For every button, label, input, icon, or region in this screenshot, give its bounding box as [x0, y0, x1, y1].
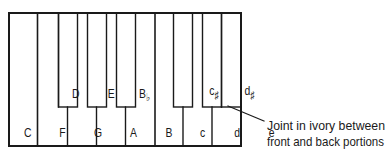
white-key-label-c: C: [24, 125, 32, 139]
black-key-b-flat: [117, 13, 136, 107]
note-letter: B: [139, 86, 146, 100]
black-key-label-d: D: [72, 86, 80, 100]
white-key-label-c-lower: c: [200, 125, 205, 139]
white-key-label-a: A: [130, 125, 137, 139]
sharp-sign: ♯: [250, 89, 254, 101]
white-key-label-b: B: [166, 125, 173, 139]
annotation: Joint in ivory between front and back po…: [267, 118, 385, 149]
white-key-label-d-lower: d: [234, 125, 240, 139]
annotation-line-1: Joint in ivory between: [267, 118, 385, 133]
flat-sign: ♭: [146, 91, 150, 103]
sharp-sign: ♯: [214, 89, 218, 101]
black-key-c-sharp: [174, 13, 193, 107]
white-key-label-g: G: [94, 125, 102, 139]
black-key-labels: D E B♭ c♯ d♯: [72, 83, 255, 103]
black-key-e: [88, 13, 107, 107]
annotation-line-2: front and back portions: [267, 134, 384, 149]
annotation-leader-line: [228, 106, 264, 121]
white-key-label-f: F: [59, 125, 65, 139]
white-key-labels: C F G A B c d e: [24, 125, 275, 139]
black-key-label-c-sharp: c♯: [209, 83, 219, 101]
note-letter: d: [245, 83, 251, 97]
black-key-label-e: E: [108, 86, 115, 100]
keyboard-diagram: C F G A B c d e D E B♭ c♯ d♯ Joint in iv…: [0, 0, 392, 161]
black-key-label-b-flat: B♭: [139, 86, 150, 103]
black-key-label-d-sharp: d♯: [245, 83, 255, 101]
